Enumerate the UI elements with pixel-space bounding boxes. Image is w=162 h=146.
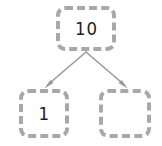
tree-node-root[interactable]: 10 — [56, 6, 116, 51]
edge-root-to-right — [86, 52, 125, 85]
tree-diagram-canvas: 10 1 — [0, 0, 162, 146]
tree-node-left-child[interactable]: 1 — [19, 89, 69, 138]
tree-node-left-child-label: 1 — [38, 105, 49, 123]
arrowhead-right-icon — [119, 80, 128, 89]
arrowhead-left-icon — [45, 80, 54, 89]
edge-root-to-left — [48, 52, 87, 85]
tree-node-right-child[interactable] — [99, 89, 151, 138]
tree-node-root-label: 10 — [75, 20, 98, 38]
